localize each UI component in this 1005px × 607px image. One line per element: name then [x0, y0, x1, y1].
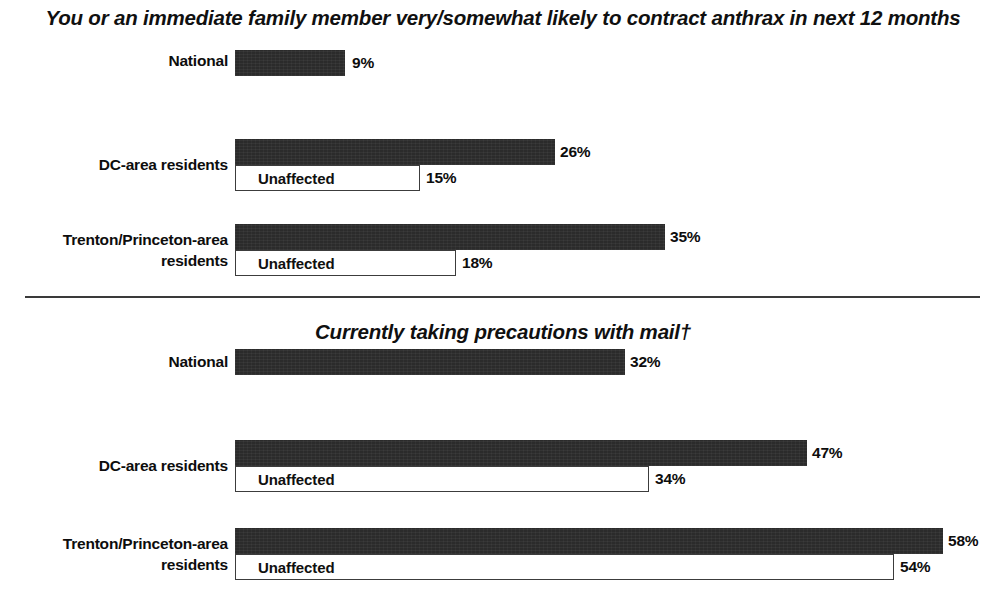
category-label-line: DC-area residents — [28, 455, 228, 476]
bar-value-dc-unaffected-2: 34% — [655, 470, 685, 488]
category-label-trenton-1: Trenton/Princeton-area residents — [18, 229, 228, 271]
category-label-dc-1: DC-area residents — [28, 154, 228, 175]
bar-trenton-exposed-2 — [235, 528, 943, 554]
bar-dc-unaffected-1: Unaffected — [235, 165, 420, 191]
bar-national-exposed-2 — [235, 349, 625, 375]
category-label-dc-2: DC-area residents — [28, 455, 228, 476]
panel-divider — [25, 296, 980, 298]
bar-value-national-2: 32% — [630, 353, 660, 371]
category-label-line: Trenton/Princeton-area — [18, 229, 228, 250]
panel-1-title: You or an immediate family member very/s… — [18, 4, 988, 31]
category-label-line: National — [28, 50, 228, 71]
category-label-line: National — [28, 351, 228, 372]
bar-trenton-unaffected-1: Unaffected — [235, 250, 456, 276]
bar-dc-exposed-2 — [235, 440, 807, 466]
anthrax-survey-bar-chart: You or an immediate family member very/s… — [0, 0, 1005, 607]
category-label-national-1: National — [28, 50, 228, 71]
category-label-line: Trenton/Princeton-area — [18, 533, 228, 554]
bar-dc-unaffected-2: Unaffected — [235, 466, 649, 492]
bar-dc-exposed-1 — [235, 139, 555, 165]
bar-inner-label-unaffected: Unaffected — [258, 471, 335, 488]
bar-inner-label-unaffected: Unaffected — [258, 170, 335, 187]
bar-value-dc-exposed-1: 26% — [560, 143, 590, 161]
bar-value-dc-unaffected-1: 15% — [426, 169, 456, 187]
panel-2-title: Currently taking precautions with mail† — [18, 318, 988, 345]
bar-value-dc-exposed-2: 47% — [812, 444, 842, 462]
bar-inner-label-unaffected: Unaffected — [258, 559, 335, 576]
bar-inner-label-unaffected: Unaffected — [258, 255, 335, 272]
bar-national-exposed-1 — [235, 50, 345, 76]
category-label-national-2: National — [28, 351, 228, 372]
bar-value-trenton-unaffected-1: 18% — [462, 254, 492, 272]
bar-trenton-exposed-1 — [235, 224, 665, 250]
bar-value-trenton-exposed-2: 58% — [948, 532, 978, 550]
category-label-line: residents — [18, 250, 228, 271]
bar-value-trenton-unaffected-2: 54% — [900, 558, 930, 576]
bar-value-trenton-exposed-1: 35% — [670, 228, 700, 246]
bar-value-national-1: 9% — [352, 54, 374, 72]
category-label-trenton-2: Trenton/Princeton-area residents — [18, 533, 228, 575]
category-label-line: residents — [18, 554, 228, 575]
bar-trenton-unaffected-2: Unaffected — [235, 554, 894, 580]
category-label-line: DC-area residents — [28, 154, 228, 175]
